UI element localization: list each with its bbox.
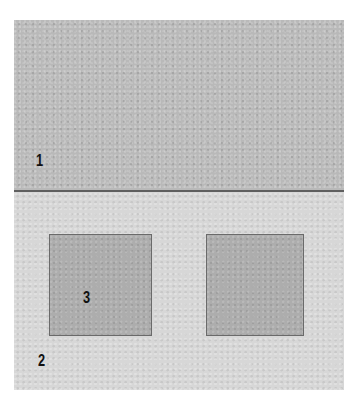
texture-figure: 1 3 2 bbox=[14, 20, 344, 390]
label-region-2: 2 bbox=[38, 353, 45, 369]
label-region-1: 1 bbox=[36, 153, 43, 169]
square-right bbox=[206, 234, 304, 336]
square-left: 3 bbox=[49, 234, 152, 336]
region-top: 1 bbox=[14, 20, 344, 190]
label-square-3: 3 bbox=[83, 290, 90, 306]
